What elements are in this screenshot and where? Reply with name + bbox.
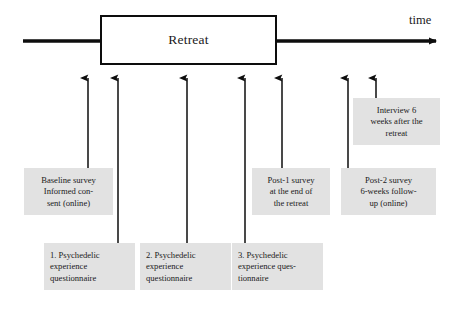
note-line: questionnaire (146, 273, 192, 285)
retreat-block: Retreat (100, 15, 277, 65)
note-line: Post-1 survey (267, 175, 314, 187)
note-line: at the end of (270, 186, 313, 198)
note-psychedelic-experience-questionnaire-1: 1. Psychedelic experience questionnaire (44, 243, 135, 290)
note-baseline-survey: Baseline survey Informed con- sent (onli… (24, 168, 113, 215)
time-axis-label: time (409, 14, 431, 27)
note-line: Informed con- (44, 186, 93, 198)
note-line: weeks after the (370, 116, 422, 128)
note-line: the retreat (274, 198, 309, 210)
note-psychedelic-experience-questionnaire-2: 2. Psychedelic experience questionnaire (140, 243, 231, 290)
note-line: 6-weeks follow- (360, 186, 416, 198)
note-post-1-survey: Post-1 survey at the end of the retreat (252, 168, 330, 215)
note-line: Interview 6 (377, 105, 416, 117)
note-line: questionnaire (50, 273, 96, 285)
note-line: sent (online) (47, 198, 90, 210)
note-line: retreat (386, 128, 408, 140)
note-line: experience (146, 261, 183, 273)
retreat-label: Retreat (168, 33, 208, 47)
note-line: 2. Psychedelic (146, 250, 196, 262)
note-line: 3. Psychedelic (238, 250, 288, 262)
note-line: experience (50, 261, 87, 273)
note-line: tionnaire (238, 273, 269, 285)
note-post-2-survey: Post-2 survey 6-weeks follow- up (online… (341, 168, 436, 215)
note-line: 1. Psychedelic (50, 250, 100, 262)
note-line: Post-2 survey (365, 175, 412, 187)
note-line: experience ques- (238, 261, 296, 273)
timeline-diagram: Retreat time Baseline survey Informed co… (0, 0, 465, 318)
note-psychedelic-experience-questionnaire-3: 3. Psychedelic experience ques- tionnair… (232, 243, 323, 290)
note-line: up (online) (370, 198, 408, 210)
note-line: Baseline survey (41, 175, 96, 187)
note-interview: Interview 6 weeks after the retreat (353, 98, 440, 145)
